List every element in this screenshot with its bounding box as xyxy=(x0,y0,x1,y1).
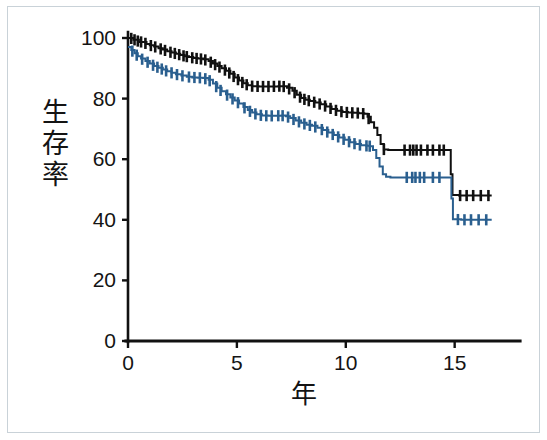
y-axis-tick-label: 60 xyxy=(93,147,116,170)
y-axis-title-char: 存 xyxy=(42,128,69,159)
y-axis-title-char: 生 xyxy=(42,97,69,128)
x-axis-title: 年 xyxy=(291,379,317,409)
x-axis-tick-label: 0 xyxy=(122,351,134,374)
y-axis-title-char: 率 xyxy=(42,159,69,190)
series-black-curve xyxy=(128,33,492,201)
series-blue-curve xyxy=(128,46,492,226)
plot-layer: 020406080100051015年生存率 xyxy=(42,26,521,409)
y-axis-tick-label: 100 xyxy=(81,26,116,49)
y-axis-tick-label: 0 xyxy=(104,329,116,352)
survival-curve-line xyxy=(128,38,492,196)
figure-root: 020406080100051015年生存率 xyxy=(0,0,547,440)
x-axis-tick-label: 15 xyxy=(443,351,466,374)
x-axis-tick-label: 10 xyxy=(334,351,357,374)
x-axis-tick-label: 5 xyxy=(231,351,243,374)
y-axis-tick-label: 80 xyxy=(93,87,116,110)
y-axis-tick-label: 40 xyxy=(93,208,116,231)
survival-chart: 020406080100051015年生存率 xyxy=(0,0,547,440)
y-axis-tick-label: 20 xyxy=(93,268,116,291)
